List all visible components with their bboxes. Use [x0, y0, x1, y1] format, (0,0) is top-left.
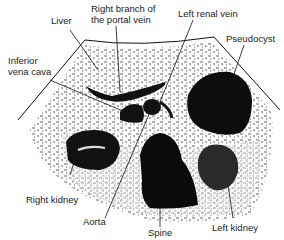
right-kidney	[66, 130, 120, 170]
label-portal-vein-line1: Right branch of	[91, 3, 155, 14]
label-pseudocyst: Pseudocyst	[226, 33, 275, 44]
label-left-renal-vein: Left renal vein	[178, 8, 238, 19]
label-portal-vein-line2: the portal vein	[91, 14, 151, 25]
label-left-kidney: Left kidney	[212, 222, 258, 233]
label-ivc-line1: Inferior	[8, 55, 38, 66]
label-right-kidney: Right kidney	[26, 194, 78, 205]
label-aorta: Aorta	[83, 216, 106, 227]
aorta	[143, 99, 161, 115]
label-spine: Spine	[148, 227, 172, 238]
label-ivc-line2: vena cava	[8, 66, 51, 77]
label-liver: Liver	[51, 15, 72, 26]
